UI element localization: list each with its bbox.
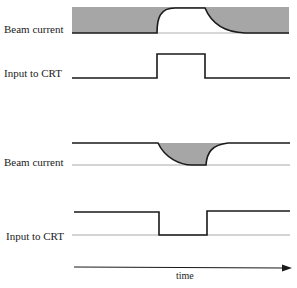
input-2-pulse xyxy=(74,211,290,235)
beam-current-label-1: Beam current xyxy=(4,23,64,35)
time-axis-arrowhead-icon xyxy=(282,265,292,272)
input-to-crt-label-1: Input to CRT xyxy=(4,67,62,79)
input-1-pulse xyxy=(72,54,290,78)
beam-current-label-2: Beam current xyxy=(4,156,64,168)
time-axis-line xyxy=(74,267,284,268)
beam-current-1-shading xyxy=(72,7,289,33)
diagram-canvas xyxy=(0,0,297,288)
input-to-crt-label-2: Input to CRT xyxy=(6,230,64,242)
time-axis-label: time xyxy=(176,270,194,281)
